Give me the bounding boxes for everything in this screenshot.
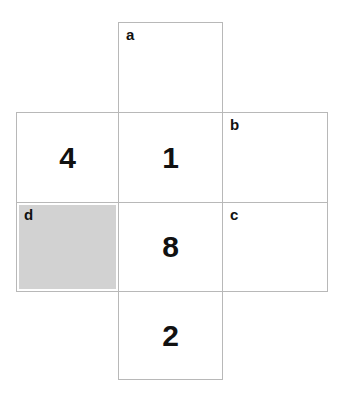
- net-cell-middle-lower-value: 8: [119, 232, 222, 262]
- net-cell-middle-upper-value: 1: [119, 143, 222, 173]
- net-cell-d[interactable]: d: [16, 202, 119, 292]
- net-cell-b-label: b: [230, 117, 239, 134]
- net-cell-middle-lower[interactable]: 8: [118, 202, 223, 292]
- net-cell-left-value: 4: [17, 143, 118, 173]
- cube-net-figure: a 4 1 b d 8 c 2: [0, 0, 342, 400]
- net-cell-bottom-value: 2: [119, 321, 222, 351]
- net-cell-d-shading: [19, 205, 116, 289]
- net-cell-a-label: a: [126, 27, 134, 44]
- net-cell-middle-upper[interactable]: 1: [118, 112, 223, 203]
- net-cell-c[interactable]: c: [222, 202, 328, 292]
- net-cell-bottom[interactable]: 2: [118, 291, 223, 380]
- net-cell-b[interactable]: b: [222, 112, 328, 203]
- net-cell-a[interactable]: a: [118, 22, 223, 113]
- net-cell-left[interactable]: 4: [16, 112, 119, 203]
- net-cell-d-label: d: [24, 207, 33, 224]
- net-cell-c-label: c: [230, 207, 238, 224]
